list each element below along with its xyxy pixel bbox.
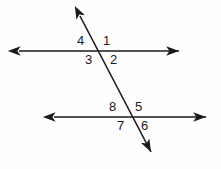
angle-label-1: 1	[103, 34, 110, 47]
angle-label-8: 8	[109, 100, 116, 113]
angle-label-3: 3	[85, 53, 92, 66]
angle-label-6: 6	[141, 119, 148, 132]
angle-label-4: 4	[77, 34, 84, 47]
angle-label-7: 7	[117, 119, 124, 132]
angle-label-5: 5	[135, 100, 142, 113]
geometry-figure: 1 2 3 4 5 6 7 8	[0, 0, 221, 169]
geometry-diagram-svg	[0, 0, 221, 169]
angle-label-2: 2	[110, 53, 117, 66]
